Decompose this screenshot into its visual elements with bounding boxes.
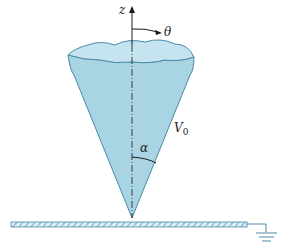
cone-diagram [0,0,291,252]
z-axis-label: z [119,3,125,17]
theta-arrowhead-icon [155,30,162,35]
theta-arrow [132,29,158,32]
z-axis-arrow-icon [129,6,135,13]
ground-icon [247,224,277,241]
alpha-label: α [140,141,148,155]
potential-label: V0 [174,121,188,137]
cone-top [68,40,194,63]
theta-label: θ [164,25,171,39]
